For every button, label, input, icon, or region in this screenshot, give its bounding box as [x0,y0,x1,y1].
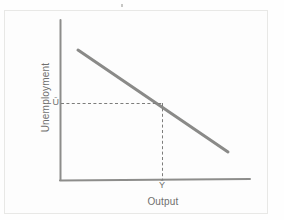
y-tick-label-natural-unemployment: Ū [47,97,59,107]
scanned-page: Unemployment Output Ū Ȳ [0,0,284,220]
x-axis-label: Output [113,196,213,207]
okun-relation-chart: Unemployment Output Ū Ȳ [0,0,284,220]
okun-relation-line [78,50,228,152]
x-tick-label-natural-output: Ȳ [156,180,168,190]
x-axis-line [60,179,250,181]
